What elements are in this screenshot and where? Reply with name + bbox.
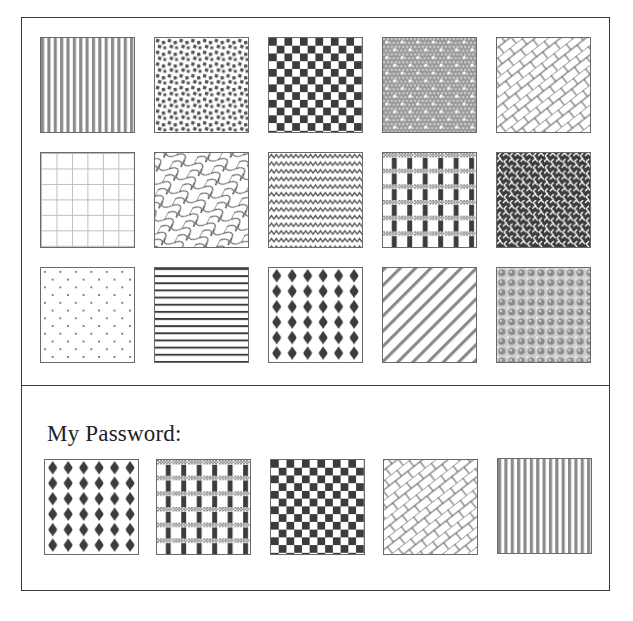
- woven-plaid-pattern-icon: [157, 460, 250, 554]
- password-tile-dark-diamonds: [44, 459, 139, 555]
- diagonal-stripes-pattern-icon: [383, 268, 476, 362]
- pattern-tile-woven-plaid[interactable]: [382, 152, 477, 248]
- pattern-tile-light-grid[interactable]: [40, 152, 135, 248]
- herringbone-weave-pattern-icon: [497, 153, 590, 247]
- password-tile-checkerboard: [270, 459, 365, 555]
- pattern-tile-diagonal-stripes[interactable]: [382, 267, 477, 363]
- beaded-circles-pattern-icon: [497, 268, 590, 362]
- pattern-tile-diagonal-bricks[interactable]: [496, 37, 591, 133]
- pattern-tile-scattered-squares[interactable]: [154, 37, 249, 133]
- section-divider: [21, 385, 610, 386]
- diagonal-bricks-pattern-icon: [497, 38, 590, 132]
- diagonal-scales-pattern-icon: [155, 153, 248, 247]
- pattern-tile-beaded-circles[interactable]: [496, 267, 591, 363]
- zigzag-waves-pattern-icon: [269, 153, 362, 247]
- light-grid-pattern-icon: [41, 153, 134, 247]
- pattern-tile-vertical-stripes[interactable]: [40, 37, 135, 133]
- gray-dotted-mesh-pattern-icon: [383, 38, 476, 132]
- checkerboard-pattern-icon: [269, 38, 362, 132]
- pattern-tile-diagonal-scales[interactable]: [154, 152, 249, 248]
- diagonal-bricks-pattern-icon: [384, 460, 477, 554]
- dark-diamonds-pattern-icon: [269, 268, 362, 362]
- pattern-tile-zigzag-waves[interactable]: [268, 152, 363, 248]
- pattern-tile-dark-diamonds[interactable]: [268, 267, 363, 363]
- dark-diamonds-pattern-icon: [45, 460, 138, 554]
- checkerboard-pattern-icon: [271, 460, 364, 554]
- scattered-squares-pattern-icon: [155, 38, 248, 132]
- pattern-tile-horizontal-stripes[interactable]: [154, 267, 249, 363]
- password-tile-diagonal-bricks: [383, 459, 478, 555]
- vertical-stripes-pattern-icon: [498, 459, 591, 553]
- pattern-tile-checkerboard[interactable]: [268, 37, 363, 133]
- pattern-tile-gray-dotted-mesh[interactable]: [382, 37, 477, 133]
- horizontal-stripes-pattern-icon: [155, 268, 248, 362]
- woven-plaid-pattern-icon: [383, 153, 476, 247]
- sparse-dots-pattern-icon: [41, 268, 134, 362]
- pattern-tile-sparse-dots[interactable]: [40, 267, 135, 363]
- vertical-stripes-pattern-icon: [41, 38, 134, 132]
- password-tile-vertical-stripes: [497, 458, 592, 554]
- pattern-tile-herringbone-weave[interactable]: [496, 152, 591, 248]
- password-label: My Password:: [47, 421, 182, 447]
- password-tile-woven-plaid: [156, 459, 251, 555]
